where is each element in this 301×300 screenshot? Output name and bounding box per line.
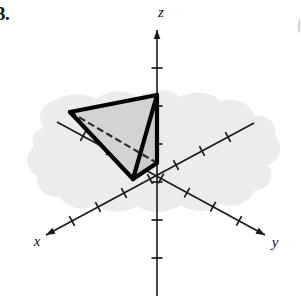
x-axis-tick (69, 216, 74, 226)
axis-label-z: z (157, 4, 164, 20)
axis-label-y: y (270, 234, 279, 250)
x-axis-arrowhead (46, 228, 56, 235)
y-axis-tick (236, 216, 241, 226)
z-axis-arrowhead (154, 30, 161, 39)
axis-label-x: x (33, 233, 41, 249)
figure-root: 3. ( z x y (0, 0, 301, 300)
y-axis-arrowhead (255, 228, 265, 235)
coordinate-diagram: z x y (0, 0, 301, 300)
